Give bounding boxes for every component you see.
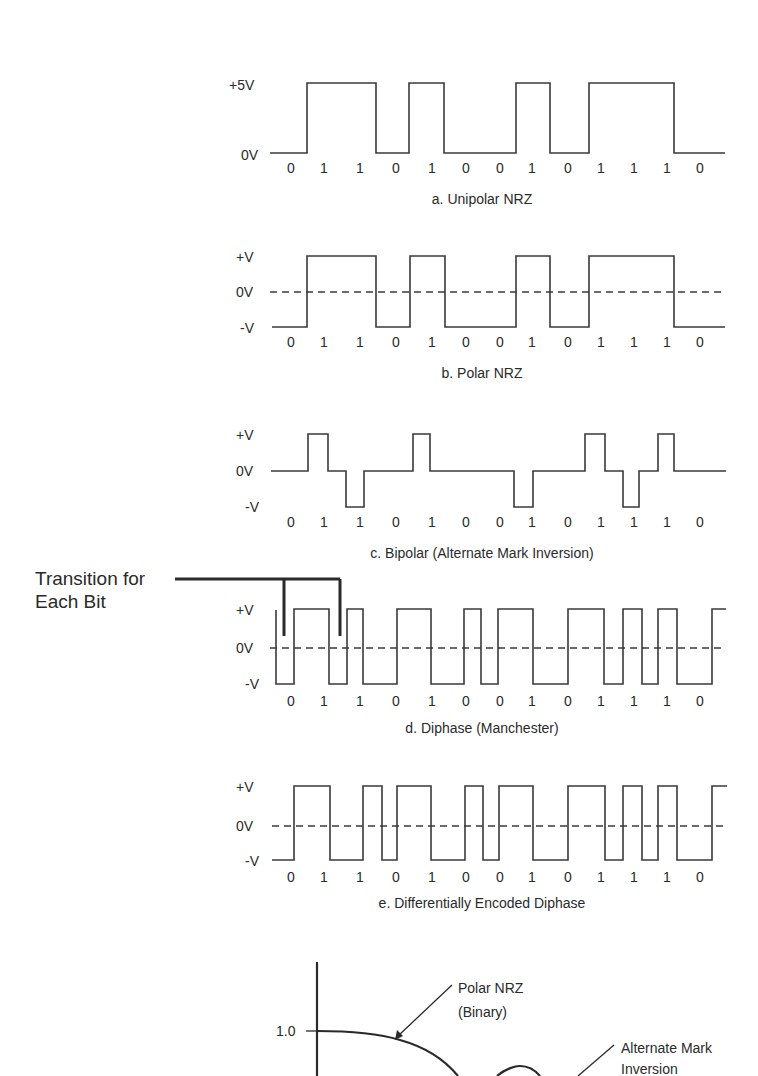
level-label-low: -V [245,853,260,869]
level-label-high: +V [236,427,254,443]
ami-pointer [578,1045,614,1076]
bit-label: 0 [392,160,400,176]
bit-label: 0 [496,693,504,709]
bit-label: 1 [320,160,328,176]
bit-label: 1 [630,334,638,350]
bit-labels: 0110100101110 [287,693,704,709]
bit-labels: 0110100101110 [287,869,704,885]
panel-bipolar-ami: +V 0V -V 0110100101110 c. Bipolar (Alter… [236,427,726,561]
line-coding-figure: +5V 0V 0110100101110 a. Unipolar NRZ +V … [0,0,758,1076]
bit-label: 1 [356,334,364,350]
bit-label: 0 [462,514,470,530]
bit-label: 1 [630,514,638,530]
caption-bipolar: c. Bipolar (Alternate Mark Inversion) [370,545,593,561]
level-label-low: -V [240,320,255,336]
caption-differential-manchester: e. Differentially Encoded Diphase [379,895,586,911]
bit-label: 0 [462,869,470,885]
bit-label: 1 [663,869,671,885]
bit-label: 1 [428,160,436,176]
bit-label: 0 [564,160,572,176]
bit-label: 0 [392,869,400,885]
bit-label: 1 [356,693,364,709]
level-label-zero: 0V [236,463,254,479]
caption-manchester: d. Diphase (Manchester) [405,720,558,736]
bit-label: 1 [528,160,536,176]
bit-label: 0 [496,160,504,176]
ami-curve [497,1066,540,1076]
bit-label: 1 [528,693,536,709]
bit-label: 0 [392,693,400,709]
bit-label: 0 [564,869,572,885]
bit-label: 0 [287,693,295,709]
bit-label: 1 [528,869,536,885]
arrowhead-icon [395,1030,403,1040]
bit-label: 1 [428,334,436,350]
level-label-low: 0V [241,147,259,163]
bit-label: 1 [597,334,605,350]
bit-label: 1 [597,160,605,176]
bit-label: 0 [696,693,704,709]
bit-label: 0 [462,334,470,350]
bit-label: 0 [696,514,704,530]
caption-polar: b. Polar NRZ [442,365,523,381]
bit-label: 0 [496,514,504,530]
bit-label: 1 [663,693,671,709]
bit-label: 1 [597,869,605,885]
level-label-high: +V [236,779,254,795]
level-label-low: -V [245,499,260,515]
bipolar-waveform [271,434,726,507]
level-label-low: -V [245,676,260,692]
panel-polar-nrz: +V 0V -V 0110100101110 b. Polar NRZ [236,249,725,381]
curve-label-ami: Alternate Mark [621,1040,713,1056]
level-label-high: +5V [229,77,255,93]
bit-label: 1 [428,514,436,530]
polar-nrz-curve [317,1031,458,1076]
spectrum-plot: 1.0 Polar NRZ (Binary) Alternate Mark In… [276,962,713,1076]
bit-label: 1 [320,693,328,709]
y-tick-label: 1.0 [276,1023,296,1039]
annotation-line-2: Each Bit [35,591,106,612]
bit-label: 1 [356,160,364,176]
bit-label: 0 [287,334,295,350]
bit-label: 0 [496,334,504,350]
bit-label: 1 [528,334,536,350]
level-label-zero: 0V [236,818,254,834]
annotation-leader-line [175,579,340,636]
bit-labels: 0110100101110 [287,514,704,530]
bit-label: 0 [462,160,470,176]
panel-manchester: +V 0V -V 0110100101110 d. Diphase (Manch… [236,602,726,736]
curve-label-polar-nrz: Polar NRZ [458,980,524,996]
bit-label: 1 [320,869,328,885]
bit-label: 0 [564,514,572,530]
bit-label: 0 [462,693,470,709]
manchester-waveform [276,609,726,684]
bit-label: 1 [428,869,436,885]
bit-label: 1 [630,693,638,709]
panel-differential-manchester: +V 0V -V 0110100101110 e. Differentially… [236,779,727,911]
level-label-zero: 0V [236,284,254,300]
bit-label: 1 [320,514,328,530]
annotation-line-1: Transition for [35,568,146,589]
bit-label: 1 [663,160,671,176]
caption-unipolar: a. Unipolar NRZ [432,191,533,207]
panel-unipolar-nrz: +5V 0V 0110100101110 a. Unipolar NRZ [229,77,725,207]
bit-label: 1 [597,693,605,709]
bit-labels: 0110100101110 [287,160,704,176]
bit-label: 1 [663,334,671,350]
differential-manchester-waveform [272,786,727,860]
bit-label: 0 [696,869,704,885]
bit-label: 1 [597,514,605,530]
level-label-zero: 0V [236,640,254,656]
bit-label: 1 [630,869,638,885]
bit-label: 0 [696,334,704,350]
bit-label: 1 [528,514,536,530]
bit-label: 0 [496,869,504,885]
curve-label-ami-sub: Inversion [621,1061,678,1076]
bit-label: 0 [392,514,400,530]
bit-label: 0 [392,334,400,350]
bit-label: 1 [428,693,436,709]
level-label-high: +V [236,602,254,618]
bit-label: 1 [663,514,671,530]
bit-label: 0 [564,334,572,350]
bit-label: 0 [564,693,572,709]
